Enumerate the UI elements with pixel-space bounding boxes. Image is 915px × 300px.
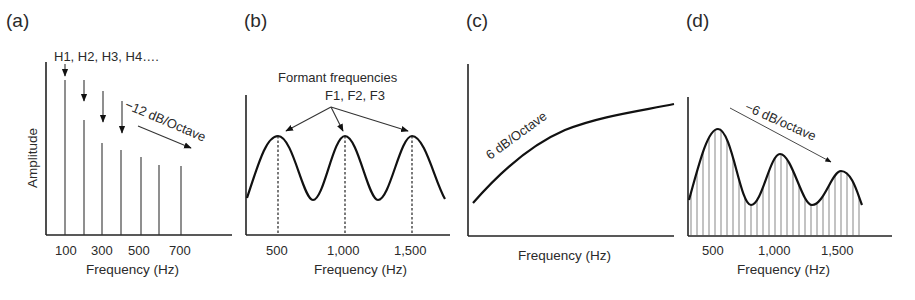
harmonics-annotation: H1, H2, H3, H4….: [54, 49, 159, 64]
panel-a: (a) H1, H2, H3, H4…. −12 dB/Octave 100 3…: [6, 10, 232, 277]
formant-arrow-icons: [286, 107, 408, 131]
x-tick: 1,500: [821, 243, 854, 258]
y-axis-title: Amplitude: [25, 128, 40, 188]
panel-b: (b) Formant frequencies F1, F2, F3 500 1…: [244, 10, 450, 277]
x-axis-title: Frequency (Hz): [86, 262, 179, 277]
x-tick: 1,000: [758, 243, 791, 258]
formant-curve: [247, 136, 445, 200]
x-axis-title: Frequency (Hz): [518, 248, 611, 263]
x-tick: 1,500: [394, 243, 427, 258]
x-tick: 100: [55, 243, 77, 258]
source-filter-figure: (a) H1, H2, H3, H4…. −12 dB/Octave 100 3…: [0, 0, 915, 300]
harmonic-lines: [65, 80, 181, 235]
x-tick: 500: [702, 243, 724, 258]
x-tick: 700: [169, 243, 191, 258]
panel-a-label: (a): [6, 10, 29, 31]
harmonic-arrow-icons: [65, 64, 122, 133]
x-tick: 300: [91, 243, 113, 258]
x-tick: 500: [128, 243, 150, 258]
slope-label-c: 6 dB/Octave: [483, 108, 550, 162]
panel-d: (d): [686, 10, 892, 277]
x-tick: 1,000: [327, 243, 360, 258]
x-axis-title: Frequency (Hz): [737, 262, 830, 277]
panel-d-label: (d): [686, 10, 709, 31]
x-tick: 500: [266, 243, 288, 258]
formant-annotation-line2: F1, F2, F3: [325, 88, 385, 103]
panel-c-label: (c): [466, 10, 488, 31]
panel-b-label: (b): [244, 10, 267, 31]
x-axis-title: Frequency (Hz): [314, 262, 407, 277]
formant-annotation-line1: Formant frequencies: [278, 70, 398, 85]
panel-c: (c) 6 dB/Octave Frequency (Hz): [466, 10, 674, 263]
